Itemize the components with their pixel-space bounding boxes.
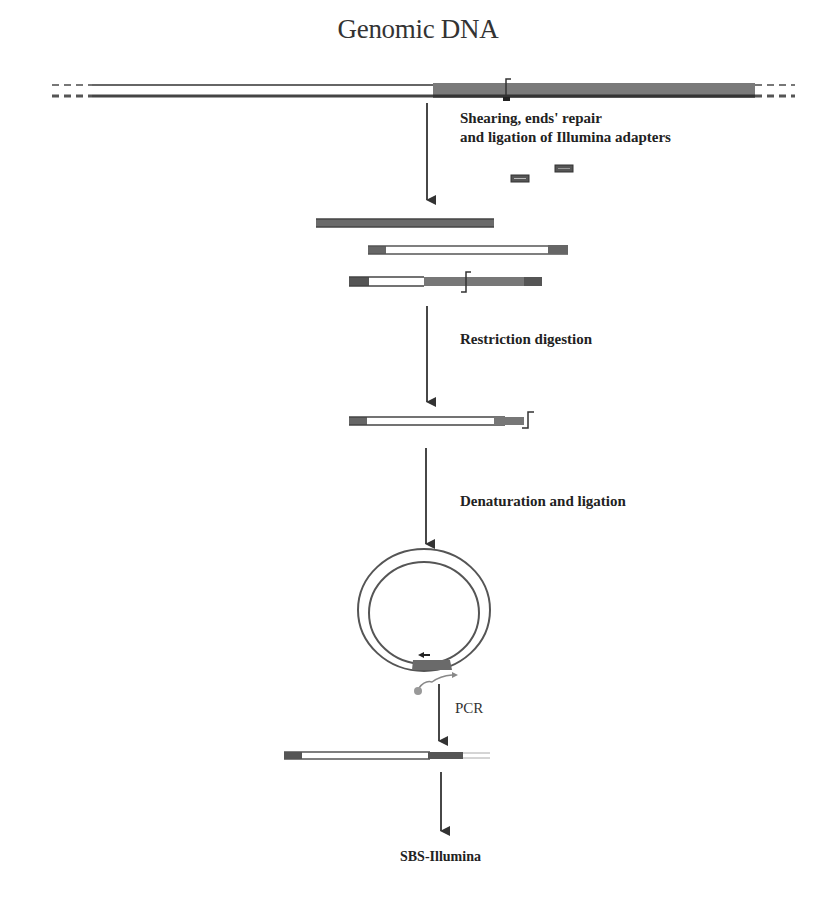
primer-dot-icon bbox=[414, 687, 422, 695]
step-2-label: Restriction digestion bbox=[460, 331, 592, 348]
step-4-label: PCR bbox=[455, 700, 483, 717]
step-1-label-line2: and ligation of Illumina adapters bbox=[460, 129, 671, 146]
step-3-label: Denaturation and ligation bbox=[460, 493, 626, 510]
step-1-label-line1: Shearing, ends' repair bbox=[460, 110, 602, 127]
primer-arrow-icon bbox=[452, 672, 458, 678]
circularized-fragment bbox=[358, 549, 490, 695]
fragment-2 bbox=[368, 245, 568, 254]
pcr-product bbox=[284, 752, 490, 759]
genomic-dna bbox=[52, 79, 795, 101]
adapter-region bbox=[412, 660, 452, 670]
step-5-label: SBS-Illumina bbox=[400, 849, 481, 865]
primer-arrow-icon bbox=[418, 652, 424, 658]
workflow-diagram bbox=[0, 0, 836, 901]
fragment-3 bbox=[349, 272, 542, 292]
fragment-1 bbox=[316, 219, 494, 227]
adapters bbox=[511, 165, 573, 182]
digested-fragment bbox=[349, 412, 534, 428]
